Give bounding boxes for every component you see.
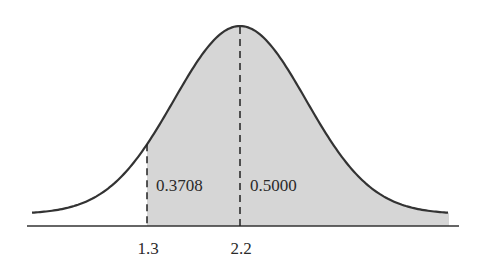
- area-label-right: 0.5000: [250, 176, 297, 195]
- x-tick-label-1-3: 1.3: [137, 239, 158, 258]
- normal-distribution-chart: 0.3708 0.5000 1.3 2.2: [0, 0, 482, 278]
- shaded-area: [147, 26, 449, 226]
- area-label-left: 0.3708: [156, 176, 203, 195]
- x-tick-label-2-2: 2.2: [230, 239, 251, 258]
